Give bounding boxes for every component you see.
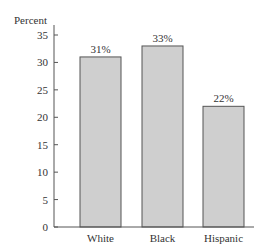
bar-chart: Percent 05101520253035 31%33%22% WhiteBl… — [0, 0, 268, 252]
bar-black — [142, 46, 183, 227]
y-axis: 05101520253035 — [37, 25, 58, 233]
y-tick-label: 20 — [37, 111, 49, 123]
bar-white — [80, 57, 121, 227]
x-category-label: Hispanic — [204, 232, 243, 244]
y-tick-label: 30 — [37, 56, 49, 68]
y-tick-label: 5 — [43, 194, 49, 206]
x-category-label: White — [87, 232, 114, 244]
bar-hispanic — [203, 106, 244, 227]
y-tick-label: 15 — [37, 139, 49, 151]
y-axis-label: Percent — [14, 14, 47, 26]
bar-value-label: 31% — [90, 43, 110, 55]
y-tick-label: 35 — [37, 29, 49, 41]
bar-value-label: 33% — [152, 32, 172, 44]
bar-value-label: 22% — [213, 92, 233, 104]
bars: 31%33%22% — [80, 32, 244, 227]
y-tick-label: 10 — [37, 166, 49, 178]
y-tick-label: 0 — [43, 221, 49, 233]
x-category-label: Black — [150, 232, 176, 244]
y-tick-label: 25 — [37, 84, 49, 96]
x-axis: WhiteBlackHispanic — [54, 227, 254, 244]
